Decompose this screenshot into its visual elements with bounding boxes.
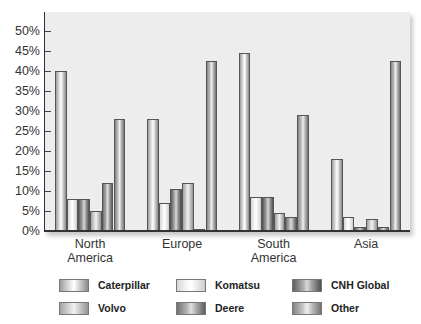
bar-cnh-global — [170, 189, 182, 231]
y-tick — [44, 151, 51, 152]
legend-label: Caterpillar — [98, 279, 150, 292]
y-tick — [44, 171, 51, 172]
x-axis-label: Europe — [137, 237, 227, 251]
y-tick-label: 50% — [0, 24, 40, 38]
plot-area — [44, 12, 410, 232]
y-tick — [44, 31, 51, 32]
y-tick — [44, 131, 51, 132]
bar-komatsu — [159, 203, 171, 231]
cnh-global-swatch — [292, 279, 322, 292]
x-axis-label: Asia — [321, 237, 411, 251]
legend-label: Other — [331, 302, 359, 315]
bar-volvo — [366, 219, 378, 231]
bar-cnh-global — [262, 197, 274, 231]
bar-cnh-global — [78, 199, 90, 231]
x-axis-line — [44, 230, 410, 232]
y-tick-label: 15% — [0, 164, 40, 178]
bar-caterpillar — [55, 71, 67, 231]
bar-volvo — [274, 213, 286, 231]
bar-other — [297, 115, 309, 231]
bar-other — [206, 61, 218, 231]
y-tick-label: 25% — [0, 124, 40, 138]
y-tick-label: 30% — [0, 104, 40, 118]
bar-komatsu — [343, 217, 355, 231]
y-tick-label: 10% — [0, 184, 40, 198]
y-tick — [44, 211, 51, 212]
y-tick — [44, 51, 51, 52]
legend-label: Volvo — [98, 302, 126, 315]
y-tick-label: 45% — [0, 44, 40, 58]
caterpillar-swatch — [59, 279, 89, 292]
other-swatch — [292, 302, 322, 315]
legend-label: Deere — [215, 302, 244, 315]
komatsu-swatch — [176, 279, 206, 292]
y-tick — [44, 191, 51, 192]
bar-deere — [102, 183, 114, 231]
bar-volvo — [90, 211, 102, 231]
bar-caterpillar — [239, 53, 251, 231]
y-tick — [44, 71, 51, 72]
volvo-swatch — [59, 302, 89, 315]
bar-other — [114, 119, 126, 231]
y-tick-label: 35% — [0, 84, 40, 98]
x-axis-label: NorthAmerica — [45, 237, 135, 265]
bar-caterpillar — [147, 119, 159, 231]
y-tick-label: 0% — [0, 224, 40, 238]
y-tick-label: 20% — [0, 144, 40, 158]
deere-swatch — [176, 302, 206, 315]
y-tick-label: 40% — [0, 64, 40, 78]
bar-volvo — [182, 183, 194, 231]
bar-other — [390, 61, 402, 231]
y-axis-line — [44, 12, 45, 231]
bar-caterpillar — [331, 159, 343, 231]
bar-komatsu — [250, 197, 262, 231]
legend-label: Komatsu — [215, 279, 260, 292]
bar-deere — [285, 217, 297, 231]
legend-label: CNH Global — [331, 279, 389, 292]
x-axis-label: SouthAmerica — [229, 237, 319, 265]
bar-komatsu — [67, 199, 79, 231]
y-tick — [44, 91, 51, 92]
y-tick — [44, 111, 51, 112]
y-tick-label: 5% — [0, 204, 40, 218]
